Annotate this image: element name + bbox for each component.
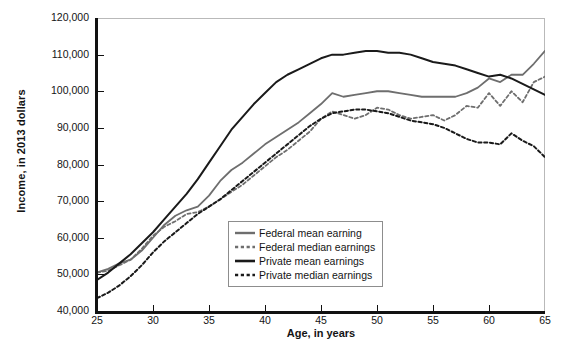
- y-tick-label: 70,000: [35, 195, 89, 206]
- x-tick-mark: [489, 305, 490, 311]
- x-tick-label: 50: [357, 314, 397, 326]
- axis-frame: [544, 18, 545, 311]
- x-tick-label: 25: [77, 314, 117, 326]
- y-tick-mark: [98, 91, 104, 92]
- y-tick-mark: [98, 274, 104, 275]
- legend-label-federal-mean: Federal mean earning: [259, 228, 362, 239]
- x-tick-label: 35: [189, 314, 229, 326]
- legend-swatch-private-mean: [234, 255, 256, 267]
- legend-swatch-federal-median: [234, 241, 256, 253]
- y-tick-label: 100,000: [35, 85, 89, 96]
- x-tick-label: 55: [413, 314, 453, 326]
- x-tick-label: 30: [133, 314, 173, 326]
- x-axis-line: [95, 311, 545, 314]
- x-tick-label: 45: [301, 314, 341, 326]
- y-tick-label: 80,000: [35, 159, 89, 170]
- y-tick-label: 50,000: [35, 268, 89, 279]
- x-tick-label: 65: [525, 314, 565, 326]
- legend-swatch-federal-mean: [234, 227, 256, 239]
- x-tick-mark: [377, 305, 378, 311]
- legend-label-private-mean: Private mean earnings: [259, 256, 364, 267]
- y-tick-mark: [98, 55, 104, 56]
- x-tick-mark: [433, 305, 434, 311]
- chart-figure: Income, in 2013 dollars Age, in years 40…: [0, 0, 576, 349]
- x-tick-mark: [153, 305, 154, 311]
- legend-item-federal-mean: Federal mean earning: [234, 226, 375, 240]
- x-tick-mark: [209, 305, 210, 311]
- legend-item-federal-median: Federal median earnings: [234, 240, 375, 254]
- y-tick-label: 90,000: [35, 122, 89, 133]
- x-tick-mark: [321, 305, 322, 311]
- y-tick-label: 120,000: [35, 12, 89, 23]
- legend-label-private-median: Private median earnings: [259, 270, 372, 281]
- x-tick-mark: [265, 305, 266, 311]
- axis-frame: [97, 18, 545, 19]
- y-tick-mark: [98, 128, 104, 129]
- y-tick-label: 60,000: [35, 232, 89, 243]
- y-tick-mark: [98, 238, 104, 239]
- y-axis-title: Income, in 2013 dollars: [15, 66, 27, 236]
- y-tick-mark: [98, 165, 104, 166]
- x-tick-label: 40: [245, 314, 285, 326]
- y-tick-mark: [98, 201, 104, 202]
- chart-legend: Federal mean earning Federal median earn…: [228, 221, 383, 287]
- y-tick-label: 110,000: [35, 49, 89, 60]
- legend-item-private-median: Private median earnings: [234, 268, 375, 282]
- legend-label-federal-median: Federal median earnings: [259, 242, 375, 253]
- legend-swatch-private-median: [234, 269, 256, 281]
- y-axis-tick-labels: 40,00050,00060,00070,00080,00090,000100,…: [33, 0, 89, 349]
- legend-item-private-mean: Private mean earnings: [234, 254, 375, 268]
- x-tick-label: 60: [469, 314, 509, 326]
- x-axis-tick-labels: 253035404550556065: [0, 314, 576, 330]
